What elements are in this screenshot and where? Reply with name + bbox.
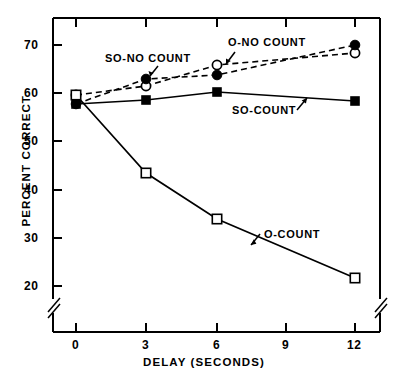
x-tick-label-9: 9 xyxy=(282,338,289,352)
annotation-o-no-count: O-NO COUNT xyxy=(228,36,306,48)
y-axis-ticks xyxy=(53,45,62,286)
x-axis-title: DELAY (SECONDS) xyxy=(143,356,265,368)
x-tick-label-0: 0 xyxy=(72,338,79,352)
datapoint-o-count-0 xyxy=(71,90,80,99)
datapoint-so-count-12 xyxy=(350,96,360,106)
axis-break-marks xyxy=(48,298,387,318)
y-axis-title-wrapper: PERCENT CORRECT xyxy=(4,95,24,265)
annotation-so-count: SO-COUNT xyxy=(232,104,296,116)
annotation-o-count: O-COUNT xyxy=(264,228,320,240)
y-tick-label-70: 70 xyxy=(24,38,38,52)
datapoint-o-count-3 xyxy=(141,168,150,177)
y-tick-label-20: 20 xyxy=(24,279,38,293)
datapoint-so-no-count-12 xyxy=(350,40,360,50)
annotation-so-no-count: SO-NO COUNT xyxy=(105,52,191,64)
datapoint-o-count-12 xyxy=(350,273,359,282)
series-o-count-line xyxy=(76,95,355,278)
series-o-count xyxy=(71,90,359,282)
datapoint-o-count-6 xyxy=(212,214,221,223)
datapoint-so-count-6 xyxy=(212,87,222,97)
datapoint-o-no-count-6 xyxy=(212,60,221,69)
figure-panel: 70 60 50 40 30 20 0 3 6 9 12 DELAY (SECO… xyxy=(0,0,399,375)
x-tick-label-3: 3 xyxy=(142,338,149,352)
datapoint-so-count-0 xyxy=(71,99,81,109)
datapoint-so-count-3 xyxy=(141,95,151,105)
datapoint-so-no-count-6 xyxy=(212,70,222,80)
datapoint-so-no-count-3 xyxy=(141,74,151,84)
annotation-leader-lines xyxy=(149,52,308,245)
y-axis-title: PERCENT CORRECT xyxy=(20,95,32,227)
line-chart-canvas xyxy=(0,0,399,375)
x-tick-label-6: 6 xyxy=(213,338,220,352)
y-tick-label-30: 30 xyxy=(24,231,38,245)
x-tick-label-12: 12 xyxy=(347,338,361,352)
